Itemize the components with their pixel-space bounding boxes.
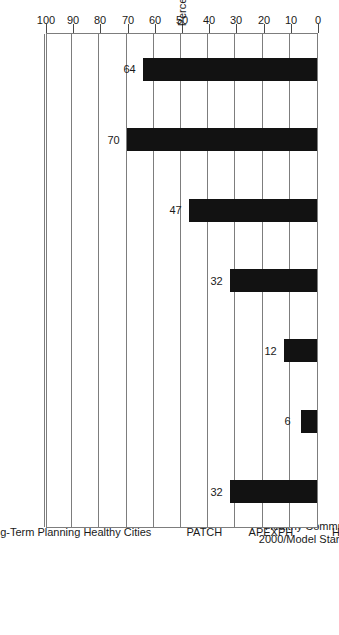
gridline <box>44 34 45 527</box>
bar: 32 <box>230 480 317 503</box>
bar-slot: 47 <box>47 175 317 245</box>
bar: 47 <box>189 199 317 222</box>
chart-stage: Long-Term PlanningHealthy CitiesPATCHAPE… <box>0 0 339 635</box>
bar-series: 3261232477064 <box>47 34 317 527</box>
plot-area: 3261232477064 <box>46 33 318 528</box>
bar-value-label: 32 <box>210 275 222 286</box>
category-label-line: Healthy People 2000 <box>332 526 339 538</box>
bar-slot: 64 <box>47 34 317 104</box>
bar-value-label: 6 <box>284 416 290 427</box>
bar-slot: 12 <box>47 316 317 386</box>
bar-value-label: 47 <box>170 205 182 216</box>
bar-value-label: 32 <box>210 486 222 497</box>
bar-slot: 6 <box>47 386 317 456</box>
value-axis-title-text: Percent of LHDs <box>176 0 188 26</box>
bar: 64 <box>143 58 317 81</box>
bar-value-label: 64 <box>123 64 135 75</box>
bar-slot: 32 <box>47 245 317 315</box>
bar: 70 <box>127 128 317 151</box>
bar-slot: 32 <box>47 457 317 527</box>
bar: 32 <box>230 269 317 292</box>
bar: 12 <box>284 339 317 362</box>
bar-value-label: 12 <box>265 345 277 356</box>
value-axis-title: Percent of LHDs <box>46 9 318 23</box>
bar-slot: 70 <box>47 104 317 174</box>
bar-value-label: 70 <box>107 134 119 145</box>
category-axis-labels: Long-Term PlanningHealthy CitiesPATCHAPE… <box>46 530 318 635</box>
bar-chart: Long-Term PlanningHealthy CitiesPATCHAPE… <box>0 0 339 635</box>
bar: 6 <box>301 410 317 433</box>
